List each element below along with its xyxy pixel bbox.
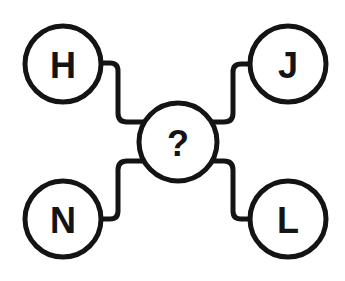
node-top-right: J <box>250 26 326 102</box>
connector-bottom-right <box>212 161 250 219</box>
connector-top-left <box>101 63 144 122</box>
node-bottom-left-label: N <box>50 200 76 241</box>
node-bottom-left: N <box>25 181 101 257</box>
node-bottom-right: L <box>250 181 326 257</box>
letter-puzzle-diagram: ? H J N L <box>0 0 345 281</box>
node-top-left: H <box>25 26 101 102</box>
node-top-left-label: H <box>50 45 76 86</box>
node-top-right-label: J <box>278 45 298 86</box>
connector-top-right <box>212 64 250 122</box>
center-node-label: ? <box>167 123 189 164</box>
node-bottom-right-label: L <box>277 200 299 241</box>
center-node: ? <box>139 103 217 181</box>
connector-bottom-left <box>101 161 144 219</box>
